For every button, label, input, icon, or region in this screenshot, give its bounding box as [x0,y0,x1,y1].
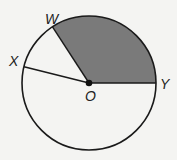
circle-diagram: W X Y O [0,0,177,160]
label-Y: Y [160,76,171,92]
label-W: W [45,11,60,27]
center-point-O [86,80,93,87]
label-X: X [8,53,19,69]
label-O: O [85,88,96,104]
